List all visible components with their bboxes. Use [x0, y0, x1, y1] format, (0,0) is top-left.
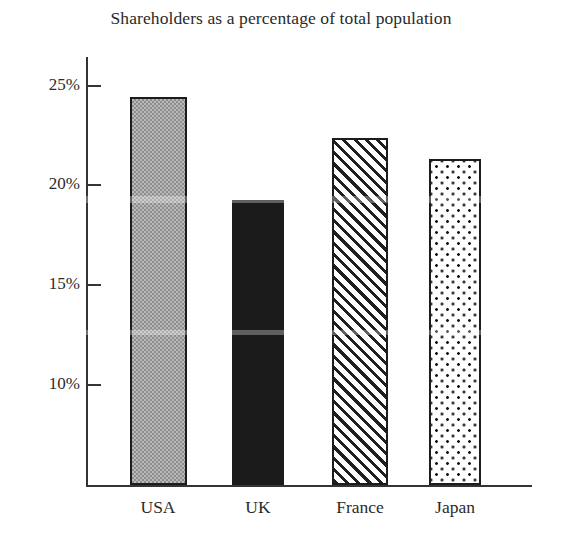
plot-area: 25% 20% 15% 10% USA UK France Japan — [0, 0, 562, 534]
x-tick-label-uk: UK — [245, 497, 270, 518]
y-tick-label-10: 10% — [18, 374, 80, 394]
y-tick-label-25: 25% — [18, 75, 80, 95]
y-tick-label-15: 15% — [18, 274, 80, 294]
bar-usa — [130, 97, 187, 485]
x-axis-line — [86, 485, 532, 487]
y-tick-mark-25 — [88, 85, 101, 87]
y-tick-mark-10 — [88, 384, 101, 386]
bar-japan — [429, 159, 481, 485]
bar-chart: Shareholders as a percentage of total po… — [0, 0, 562, 534]
y-tick-mark-20 — [88, 184, 101, 186]
x-tick-label-japan: Japan — [435, 497, 475, 518]
y-axis-line — [86, 57, 88, 487]
y-tick-mark-15 — [88, 284, 101, 286]
x-tick-label-france: France — [336, 497, 384, 518]
x-tick-label-usa: USA — [140, 497, 175, 518]
y-tick-label-20: 20% — [18, 174, 80, 194]
bar-uk — [232, 200, 284, 485]
bar-france — [332, 138, 388, 485]
